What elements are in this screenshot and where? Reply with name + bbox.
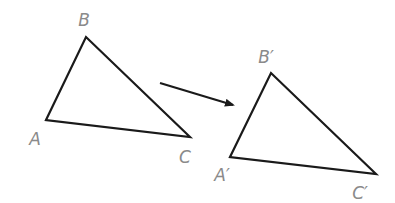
- translation-arrow: [160, 83, 233, 105]
- translation-diagram: B A C B′ A′ C′: [0, 0, 395, 203]
- diagram-canvas: [0, 0, 395, 203]
- label-b-prime: B′: [258, 49, 274, 66]
- label-a-prime: A′: [214, 167, 230, 184]
- label-b: B: [78, 12, 90, 29]
- label-c-prime: C′: [352, 185, 368, 202]
- triangle-a-prime-b-prime-c-prime: [230, 73, 376, 174]
- triangle-abc: [46, 37, 190, 137]
- label-a: A: [29, 131, 41, 148]
- label-c: C: [179, 149, 191, 166]
